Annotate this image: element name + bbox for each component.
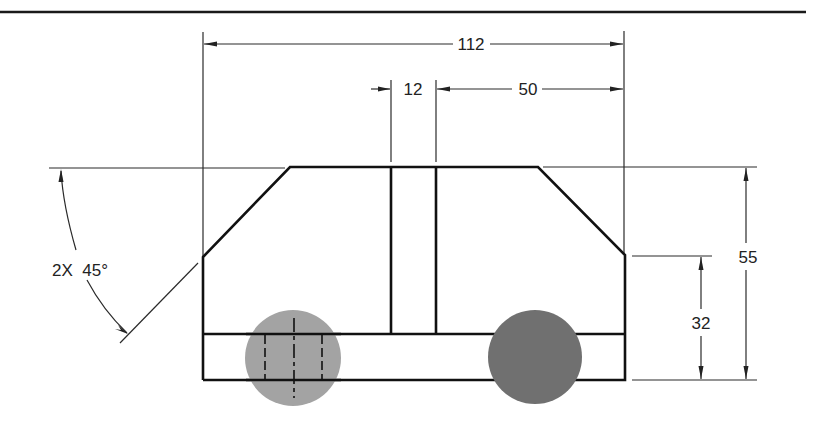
angle-label: 2X 45° (52, 261, 108, 280)
angle-arc-lower (87, 280, 127, 333)
arrowhead-icon (699, 257, 704, 270)
dimension-label-50: 50 (519, 80, 538, 99)
arrowhead-icon (437, 87, 450, 92)
dimension-gap: 12 (371, 80, 436, 162)
dimension-overall-width: 112 (203, 31, 624, 258)
front-wheel-circle (245, 310, 341, 406)
dimension-right-offset: 50 (437, 80, 623, 99)
arrowhead-icon (204, 42, 217, 47)
arrowhead-icon (699, 366, 704, 379)
angle-arc-upper (61, 171, 76, 250)
rear-wheel (488, 310, 582, 404)
arrowhead-icon (610, 42, 623, 47)
dimension-label-112: 112 (457, 35, 484, 54)
angle-extension-line (120, 263, 198, 343)
dimension-chamfer-angle: 2X 45° (49, 168, 285, 343)
technical-drawing: 112 12 50 2X 45° 55 (0, 0, 818, 427)
arrowhead-icon (744, 366, 749, 379)
front-wheel (245, 310, 341, 406)
dimension-label-55: 55 (739, 248, 758, 267)
arrowhead-icon (378, 87, 390, 92)
dimension-label-32: 32 (692, 314, 711, 333)
dimension-label-12: 12 (404, 80, 423, 99)
arrowhead-icon (115, 325, 128, 334)
arrowhead-icon (610, 87, 623, 92)
arrowhead-icon (744, 168, 749, 181)
arrowhead-icon (59, 169, 64, 182)
